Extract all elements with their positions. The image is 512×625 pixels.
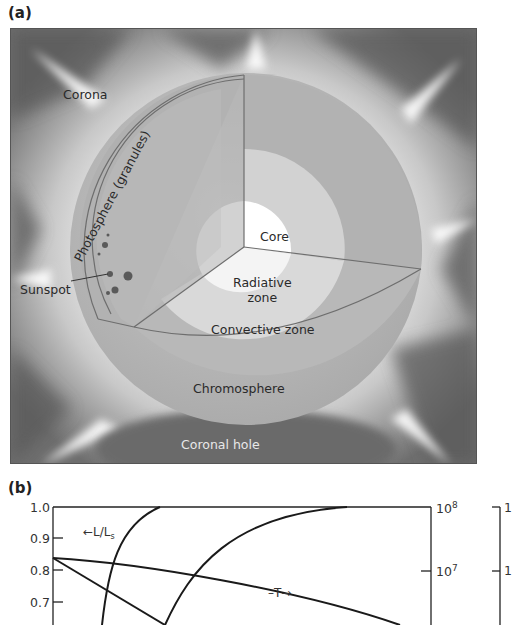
left-tick-0-7: 0.7 <box>30 595 50 610</box>
label-radiative-line1: Radiative <box>233 275 292 290</box>
sun-cutaway-diagram: Corona Photosphere (granules) Sunspot Co… <box>10 28 477 464</box>
chart-plot <box>0 470 511 625</box>
label-core: Core <box>260 229 289 244</box>
label-coronal-hole: Coronal hole <box>181 437 260 452</box>
right-tick-10e8: 108 <box>436 500 458 516</box>
panel-a-label: (a) <box>8 4 32 22</box>
label-radiative-zone: Radiative zone <box>233 275 292 305</box>
label-convective-zone: Convective zone <box>211 322 315 337</box>
luminosity-curve-label: ←L/Ls <box>83 525 115 541</box>
left-tick-1-0: 1.0 <box>30 500 50 515</box>
luminosity-temperature-chart: 1.0 0.9 0.8 0.7 108 107 1 1 ←L/Ls –T→ <box>0 470 511 625</box>
right-tick-10e7: 107 <box>436 563 458 579</box>
temperature-curve-label: –T→ <box>268 586 291 600</box>
right-axis-2-tick-top: 1 <box>504 500 512 515</box>
right-axis-2-tick-mid: 1 <box>504 563 512 578</box>
left-tick-0-9: 0.9 <box>30 531 50 546</box>
label-radiative-line2: zone <box>247 290 277 305</box>
label-corona: Corona <box>63 87 107 102</box>
label-sunspot: Sunspot <box>20 282 71 297</box>
left-tick-0-8: 0.8 <box>30 563 50 578</box>
label-chromosphere: Chromosphere <box>193 381 285 396</box>
